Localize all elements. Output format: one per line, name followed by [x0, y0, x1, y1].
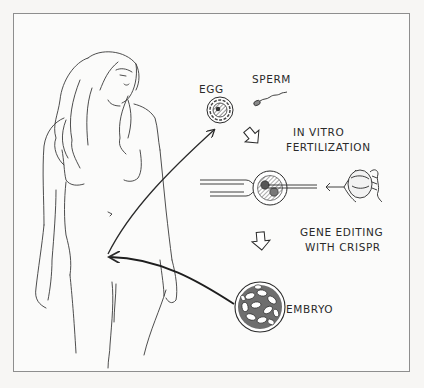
label-embryo: EMBRYO	[286, 304, 333, 315]
hollow-arrow-down-2	[251, 231, 271, 251]
label-ivf-line1: IN VITRO	[293, 127, 344, 138]
ivf-pipette-icon	[200, 180, 254, 196]
crispr-cas9-icon	[326, 170, 382, 202]
illustration: EGG SPERM IN VITRO FERTILIZATION GENE ED…	[0, 0, 424, 388]
woman-figure	[36, 52, 177, 368]
label-gene-editing-line2: WITH CRISPR	[305, 242, 381, 253]
label-gene-editing-line1: GENE EDITING	[300, 227, 383, 238]
arrow-to-egg	[108, 130, 214, 254]
label-ivf-line2: FERTILIZATION	[286, 142, 371, 153]
diagram-drawing	[0, 0, 424, 388]
label-egg: EGG	[199, 84, 224, 95]
egg-icon	[207, 97, 233, 123]
label-sperm: SPERM	[252, 74, 291, 85]
embryo-icon	[235, 282, 285, 332]
hollow-arrow-down-1	[240, 124, 265, 149]
arrow-from-embryo	[110, 257, 234, 304]
sperm-icon	[253, 92, 287, 107]
